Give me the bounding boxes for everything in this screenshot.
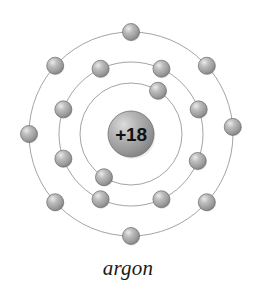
electron-s3-7 xyxy=(21,126,38,143)
electron-s1-1 xyxy=(150,82,167,99)
electron-s3-3 xyxy=(224,118,241,135)
nucleus-charge-label: +18 xyxy=(115,124,146,145)
electron-s2-1 xyxy=(92,60,109,77)
nucleus-group: +18 xyxy=(108,111,156,159)
bohr-model-svg: +18 xyxy=(0,0,256,289)
electron-s3-5 xyxy=(123,228,140,245)
element-name-caption: argon xyxy=(0,256,256,281)
electron-s3-4 xyxy=(198,194,215,211)
electron-s3-1 xyxy=(123,24,140,41)
electron-s2-4 xyxy=(189,152,206,169)
electron-s2-2 xyxy=(153,60,170,77)
atom-diagram-figure: +18 argon xyxy=(0,0,256,289)
electron-s2-6 xyxy=(92,191,109,208)
electron-s2-3 xyxy=(190,101,207,118)
electron-s2-8 xyxy=(55,101,72,118)
electron-s3-2 xyxy=(198,57,215,74)
electron-s2-5 xyxy=(153,191,170,208)
electron-s1-2 xyxy=(95,169,112,186)
electron-s3-8 xyxy=(47,57,64,74)
electron-s3-6 xyxy=(47,194,64,211)
electron-s2-7 xyxy=(55,150,72,167)
